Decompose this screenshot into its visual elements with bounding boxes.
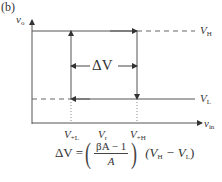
equation-fraction: βA − 1 A — [94, 140, 128, 167]
delta-v-label: ΔV — [92, 58, 112, 73]
panel-label: (b) — [1, 1, 15, 13]
hysteresis-equation: ΔV = ( βA − 1 A ) (VH − VL) — [55, 138, 194, 168]
right-paren: ) — [131, 138, 137, 168]
x-axis-label: vin — [204, 118, 214, 131]
equation-rhs: (VH − VL) — [145, 145, 194, 161]
low-level-label: VL — [200, 93, 211, 106]
equation-denominator: A — [108, 154, 115, 167]
y-axis-label: vo — [16, 14, 24, 27]
left-paren: ( — [85, 138, 91, 168]
high-level-label: VH — [200, 25, 212, 38]
equation-lhs: ΔV = — [55, 145, 83, 161]
equation-numerator: βA − 1 — [94, 140, 128, 154]
